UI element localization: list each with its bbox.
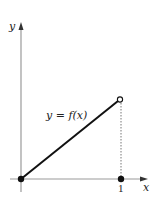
- tick-label-1: 1: [118, 182, 124, 194]
- y-axis-label: y: [8, 20, 16, 33]
- function-label: y = f(x): [45, 109, 87, 122]
- y-axis-arrow-icon: [19, 22, 24, 30]
- x-axis-label: x: [143, 181, 150, 194]
- endpoint-open-dot: [117, 97, 122, 102]
- graph-canvas: y x 1 y = f(x): [0, 0, 155, 199]
- origin-closed-dot: [18, 176, 24, 182]
- function-graph-diagram: y x 1 y = f(x): [0, 0, 155, 199]
